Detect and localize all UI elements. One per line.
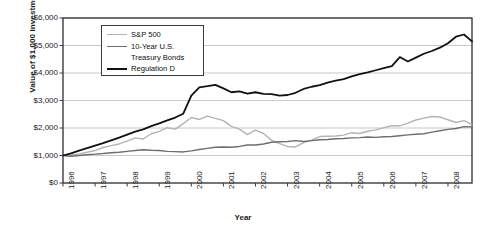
plot-area — [0, 0, 486, 237]
chart-legend: S&P 500 10-Year U.S. Treasury Bonds Regu… — [101, 25, 204, 76]
legend-swatch-regulation-d — [107, 68, 127, 70]
legend-swatch-treasury — [107, 46, 127, 47]
legend-label-treasury-line1: 10-Year U.S. — [131, 42, 174, 51]
chart-figure: Value of $1,000 Investment Year $6,000$5… — [0, 0, 486, 237]
legend-label-treasury-line2: Treasury Bonds — [131, 53, 184, 62]
legend-swatch-sp500 — [107, 34, 127, 35]
legend-label-sp500: S&P 500 — [131, 30, 161, 39]
legend-label-regulation-d: Regulation D — [131, 64, 175, 73]
